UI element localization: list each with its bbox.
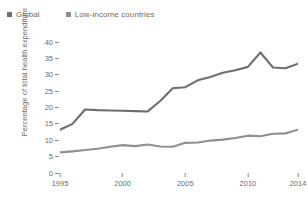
x-tick-mark xyxy=(298,173,299,177)
y-tick-label: 10 xyxy=(45,136,53,145)
legend-item-low-income-countries[interactable]: Low-income countries xyxy=(66,8,155,20)
y-tick-30: 30 xyxy=(45,70,60,79)
y-tick-40: 40 xyxy=(45,38,60,47)
x-tick-mark xyxy=(60,173,61,177)
y-tick-15: 15 xyxy=(45,119,60,128)
plot-area xyxy=(60,42,298,173)
y-tick-label: 15 xyxy=(45,119,53,128)
x-tick-1995: 1995 xyxy=(52,173,69,188)
legend-swatch-low-income-countries xyxy=(66,12,71,17)
y-tick-label: 30 xyxy=(45,70,53,79)
y-tick-mark xyxy=(55,123,59,124)
line-chart-svg xyxy=(60,42,298,173)
y-tick-mark xyxy=(55,91,59,92)
x-axis-ticks: 19952000200520102014 xyxy=(60,173,298,197)
y-axis-title: Percentage of total health expenditure xyxy=(21,2,29,142)
x-tick-label: 2010 xyxy=(240,179,257,188)
y-tick-25: 25 xyxy=(45,87,60,96)
chart-container: Global Low-income countries Percentage o… xyxy=(0,0,308,207)
y-tick-mark xyxy=(55,140,59,141)
x-tick-label: 2000 xyxy=(114,179,131,188)
y-tick-label: 25 xyxy=(45,87,53,96)
x-tick-mark xyxy=(247,173,248,177)
y-tick-mark xyxy=(55,42,59,43)
x-tick-2000: 2000 xyxy=(114,173,131,188)
x-tick-2010: 2010 xyxy=(240,173,257,188)
series-line-global xyxy=(60,52,298,129)
x-tick-mark xyxy=(122,173,123,177)
x-tick-2005: 2005 xyxy=(177,173,194,188)
x-tick-label: 1995 xyxy=(52,179,69,188)
y-tick-mark xyxy=(55,58,59,59)
chart-legend: Global Low-income countries xyxy=(7,8,155,20)
y-tick-mark xyxy=(55,156,59,157)
x-tick-2014: 2014 xyxy=(290,173,307,188)
y-tick-10: 10 xyxy=(45,136,60,145)
x-tick-label: 2005 xyxy=(177,179,194,188)
y-tick-label: 35 xyxy=(45,54,53,63)
y-tick-5: 5 xyxy=(49,152,60,161)
y-tick-20: 20 xyxy=(45,103,60,112)
y-tick-mark xyxy=(55,107,59,108)
y-tick-mark xyxy=(55,74,59,75)
legend-swatch-global xyxy=(7,12,12,17)
x-tick-mark xyxy=(185,173,186,177)
y-tick-label: 5 xyxy=(49,152,53,161)
x-tick-label: 2014 xyxy=(290,179,307,188)
series-line-low-income-countries xyxy=(60,130,298,153)
y-tick-label: 40 xyxy=(45,38,53,47)
y-tick-35: 35 xyxy=(45,54,60,63)
legend-label-low-income-countries: Low-income countries xyxy=(75,10,155,19)
y-tick-label: 20 xyxy=(45,103,53,112)
